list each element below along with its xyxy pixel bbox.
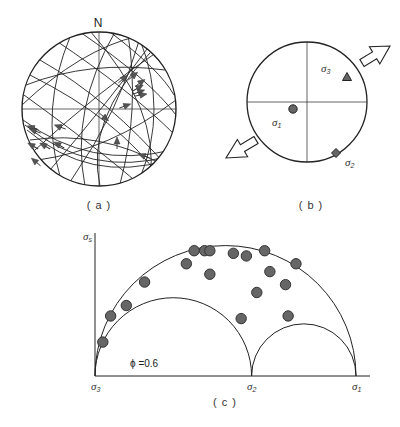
slip-arrow-icon (114, 137, 120, 149)
extension-arrow-ne-icon (357, 37, 395, 71)
mohr-circles (95, 246, 356, 376)
x-tick-label: σ1 (352, 380, 361, 393)
data-point (259, 246, 269, 256)
mohr-circle (95, 298, 252, 376)
data-point (181, 259, 191, 269)
data-point (205, 269, 215, 279)
slip-arrow-icon (118, 101, 131, 111)
great-circle (35, 50, 160, 150)
caption-a: ( a ) (87, 199, 112, 211)
data-point (189, 246, 199, 256)
stress-axes: σ1σ2σ3 (272, 62, 354, 169)
data-point (205, 246, 215, 256)
caption-b: ( b ) (299, 199, 324, 211)
x-tick-label: σ3 (91, 380, 100, 393)
data-point (105, 311, 115, 321)
mohr-circle (95, 246, 356, 376)
mohr-circle (252, 324, 356, 376)
data-point (291, 259, 301, 269)
north-label: N (94, 16, 103, 30)
great-circle (50, 45, 150, 170)
data-point (98, 337, 108, 347)
sigma1-marker: σ1 (272, 105, 297, 129)
phi-label: ϕ =0.6 (130, 358, 159, 369)
y-axis-label: σs (83, 230, 92, 243)
sigma2-marker: σ2 (332, 149, 355, 170)
caption-c: ( c ) (213, 396, 237, 408)
sigma2-label: σ2 (345, 156, 354, 169)
data-point (139, 277, 149, 287)
great-circle (55, 40, 175, 135)
data-point (236, 313, 246, 323)
great-circle (52, 37, 70, 176)
sigma3-label: σ3 (321, 62, 330, 75)
sigma1-label: σ1 (272, 116, 281, 129)
great-circle (26, 67, 165, 85)
figure: N ( a ) σ1σ2σ3 ( b ) σs σ3σ2σ1 ϕ =0.6 ( … (0, 0, 400, 427)
sigma3-marker: σ3 (321, 62, 352, 81)
data-point (283, 311, 293, 321)
data-point (280, 279, 290, 289)
x-tick-label: σ2 (247, 380, 256, 393)
data-point (228, 248, 238, 258)
data-points (98, 246, 302, 348)
data-point (241, 251, 251, 261)
x-axis-ticks: σ3σ2σ1 (91, 380, 361, 393)
panel-a-stereonet: N ( a ) (22, 16, 176, 211)
slip-arrow-icon (29, 156, 42, 168)
extension-arrow-sw-icon (221, 131, 261, 166)
data-point (265, 266, 275, 276)
data-point (121, 300, 131, 310)
panel-c-mohr-diagram: σs σ3σ2σ1 ϕ =0.6 ( c ) (83, 230, 370, 408)
panel-b-principal-stresses: σ1σ2σ3 ( b ) (221, 37, 395, 211)
data-point (252, 287, 262, 297)
